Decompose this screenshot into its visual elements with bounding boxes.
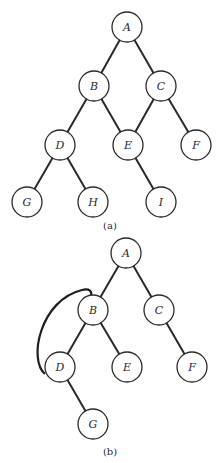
node-label: E: [122, 361, 131, 374]
node-label: B: [89, 80, 98, 93]
node-label: D: [55, 361, 65, 374]
node-e: E: [113, 130, 143, 160]
node-f: F: [177, 352, 207, 382]
node-g: G: [12, 187, 42, 217]
node-h: H: [78, 187, 108, 217]
node-d: D: [45, 352, 75, 382]
figure-b-nodes: ABCDEFG: [45, 238, 207, 439]
node-label: G: [89, 418, 98, 431]
figure-b-caption: (b): [103, 446, 117, 457]
node-label: I: [158, 196, 164, 209]
node-c: C: [144, 295, 174, 325]
node-label: H: [87, 196, 98, 209]
figure-a-caption: (a): [103, 220, 117, 231]
node-b: B: [79, 71, 109, 101]
node-label: F: [191, 139, 200, 152]
node-b: B: [78, 295, 108, 325]
graph-diagram: ABCDEFGHI (a) ABCDEFG (b): [0, 0, 219, 463]
node-label: B: [88, 304, 97, 317]
node-label: A: [121, 247, 130, 260]
node-label: C: [155, 304, 164, 317]
node-label: A: [122, 21, 131, 34]
node-f: F: [181, 130, 211, 160]
figure-a: ABCDEFGHI (a): [12, 12, 211, 231]
node-label: F: [187, 361, 196, 374]
node-g: G: [78, 409, 108, 439]
node-label: E: [123, 139, 132, 152]
node-a: A: [111, 238, 141, 268]
figure-b: ABCDEFG (b): [38, 238, 207, 457]
node-a: A: [112, 12, 142, 42]
node-d: D: [45, 130, 75, 160]
node-e: E: [112, 352, 142, 382]
node-i: I: [146, 187, 176, 217]
node-c: C: [146, 71, 176, 101]
figure-a-edges: [27, 27, 196, 202]
figure-b-edges: [60, 253, 192, 424]
node-label: C: [157, 80, 166, 93]
node-label: G: [23, 196, 32, 209]
node-label: D: [55, 139, 65, 152]
